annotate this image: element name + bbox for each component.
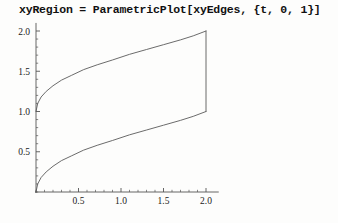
tick-labels-group: 0.51.01.52.00.51.01.52.0 [18, 27, 212, 207]
plot-svg: 0.51.01.52.00.51.01.52.0 [0, 22, 338, 223]
curves-group [36, 31, 206, 192]
x-axis-tick-label: 1.5 [158, 196, 170, 206]
x-axis-tick-label: 1.0 [115, 196, 127, 206]
axes-group [35, 23, 219, 193]
ticks-group [36, 31, 206, 192]
y-axis-tick-label: 0.5 [18, 147, 30, 157]
notebook-screenshot: xyRegion = ParametricPlot[xyEdges, {t, 0… [0, 0, 338, 223]
x-axis-tick-label: 0.5 [73, 196, 85, 206]
y-axis-tick-label: 2.0 [18, 27, 30, 37]
input-cell-expression[interactable]: xyRegion = ParametricPlot[xyEdges, {t, 0… [19, 3, 321, 16]
plot-curve-upper-edge [36, 31, 206, 112]
x-axis-tick-label: 2.0 [200, 196, 212, 206]
parametric-plot-output: 0.51.01.52.00.51.01.52.0 [0, 22, 338, 223]
y-axis-tick-label: 1.5 [18, 67, 30, 77]
y-axis-tick-label: 1.0 [18, 107, 30, 117]
plot-curve-lower-edge [36, 112, 206, 193]
